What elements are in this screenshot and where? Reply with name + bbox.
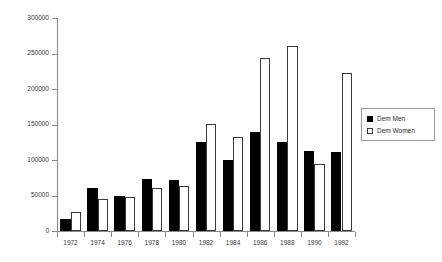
- bar-dem-men-1976: [114, 196, 124, 231]
- bar-dem-women-1988: [287, 46, 297, 231]
- bar-dem-men-1988: [277, 142, 287, 232]
- x-tick-label: 1992: [322, 240, 362, 247]
- x-tick-mark: [247, 232, 248, 237]
- y-tick-label: 100000: [0, 157, 49, 164]
- bar-dem-women-1972: [71, 212, 81, 231]
- x-tick-mark: [193, 232, 194, 237]
- x-tick-mark: [301, 232, 302, 237]
- x-tick-mark: [355, 232, 356, 237]
- bars-layer: [57, 18, 355, 231]
- legend-swatch-dem-men: [367, 116, 373, 122]
- bar-dem-women-1992: [342, 73, 352, 231]
- x-tick-mark: [57, 232, 58, 237]
- chart-legend: Dem Men Dem Women: [361, 108, 435, 141]
- bar-dem-women-1990: [314, 164, 324, 232]
- bar-dem-men-1974: [87, 188, 97, 231]
- bar-dem-women-1980: [179, 186, 189, 231]
- x-axis-line: [57, 231, 355, 232]
- bar-dem-women-1982: [206, 124, 216, 231]
- bar-dem-men-1980: [169, 180, 179, 231]
- legend-item-dem-women: Dem Women: [367, 125, 430, 137]
- bar-dem-women-1986: [260, 58, 270, 231]
- legend-label-dem-women: Dem Women: [377, 128, 415, 135]
- bar-dem-women-1974: [98, 199, 108, 231]
- bar-dem-men-1982: [196, 142, 206, 231]
- x-tick-mark: [111, 232, 112, 237]
- legend-label-dem-men: Dem Men: [377, 116, 405, 123]
- x-tick-mark: [274, 232, 275, 237]
- x-tick-mark: [165, 232, 166, 237]
- y-tick-label: 50000: [0, 192, 49, 199]
- bar-dem-men-1990: [304, 151, 314, 231]
- bar-dem-men-1972: [60, 219, 70, 231]
- y-tick-label: 0: [0, 228, 49, 235]
- legend-swatch-dem-women: [367, 128, 373, 134]
- bar-dem-women-1984: [233, 137, 243, 231]
- x-tick-mark: [138, 232, 139, 237]
- bar-dem-men-1986: [250, 132, 260, 231]
- bar-dem-women-1976: [125, 197, 135, 231]
- bar-dem-men-1984: [223, 160, 233, 231]
- y-tick-label: 250000: [0, 50, 49, 57]
- y-tick-label: 300000: [0, 15, 49, 22]
- legend-item-dem-men: Dem Men: [367, 113, 430, 125]
- bar-dem-men-1992: [331, 152, 341, 231]
- x-tick-mark: [84, 232, 85, 237]
- bar-chart: 050000100000150000200000250000300000 197…: [0, 0, 442, 262]
- x-tick-mark: [220, 232, 221, 237]
- x-tick-mark: [328, 232, 329, 237]
- bar-dem-men-1978: [142, 179, 152, 231]
- bar-dem-women-1978: [152, 188, 162, 231]
- y-tick-label: 150000: [0, 121, 49, 128]
- y-tick-label: 200000: [0, 86, 49, 93]
